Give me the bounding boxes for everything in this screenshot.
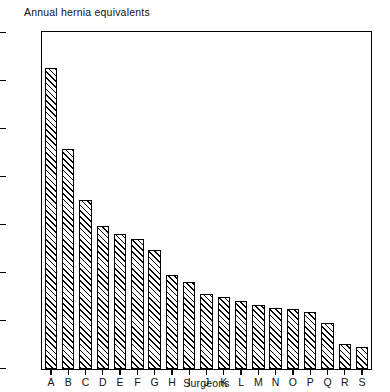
bar-rect <box>166 275 178 368</box>
x-axis-tick-mark <box>310 370 311 375</box>
bar-rect <box>79 200 91 369</box>
x-axis-tick-mark <box>258 370 259 375</box>
y-axis: 0100200300400500600700 <box>0 0 41 392</box>
bar-A <box>45 32 57 368</box>
bar-rect <box>183 282 195 369</box>
bar-J <box>200 32 212 368</box>
x-axis-tick-mark <box>189 370 190 375</box>
x-axis-tick-mark <box>171 370 172 375</box>
bar-P <box>304 32 316 368</box>
bar-rect <box>321 323 333 369</box>
bar-rect <box>218 297 230 369</box>
bar-E <box>114 32 126 368</box>
y-axis-tick-mark <box>0 320 6 321</box>
bar-F <box>131 32 143 368</box>
bar-D <box>97 32 109 368</box>
bar-rect <box>252 305 264 369</box>
bar-L <box>235 32 247 368</box>
bar-rect <box>62 149 74 369</box>
bar-rect <box>235 301 247 368</box>
x-axis-tick-mark <box>223 370 224 375</box>
bar-S <box>356 32 368 368</box>
x-axis-title: Surgeons <box>41 377 372 389</box>
chart-title: Annual hernia equivalents <box>24 6 150 18</box>
x-axis-tick-mark <box>292 370 293 375</box>
y-axis-tick-mark <box>0 128 6 129</box>
x-axis-tick-mark <box>275 370 276 375</box>
x-axis-tick-mark <box>240 370 241 375</box>
x-axis-tick-mark <box>50 370 51 375</box>
y-axis-tick-mark <box>0 176 6 177</box>
bar-O <box>287 32 299 368</box>
x-axis-tick-mark <box>327 370 328 375</box>
bar-B <box>62 32 74 368</box>
x-axis-tick-mark <box>102 370 103 375</box>
bar-K <box>218 32 230 368</box>
x-axis-tick-mark <box>154 370 155 375</box>
x-axis-tick-mark <box>68 370 69 375</box>
y-axis-tick-mark <box>0 272 6 273</box>
y-axis-tick-mark <box>0 32 6 33</box>
x-axis-tick-mark <box>85 370 86 375</box>
x-axis-tick-mark <box>361 370 362 375</box>
x-axis-tick-mark <box>206 370 207 375</box>
y-axis-tick-mark <box>0 80 6 81</box>
y-axis-tick-mark <box>0 224 6 225</box>
bar-rect <box>304 312 316 369</box>
bar-rect <box>45 68 57 368</box>
x-axis-tick-mark <box>344 370 345 375</box>
bar-rect <box>200 294 212 368</box>
bar-rect <box>148 250 160 369</box>
bar-series <box>42 32 370 368</box>
bar-H <box>166 32 178 368</box>
bar-I <box>183 32 195 368</box>
bar-rect <box>131 239 143 368</box>
bar-M <box>252 32 264 368</box>
bar-C <box>79 32 91 368</box>
y-axis-tick-mark <box>0 368 6 369</box>
bar-G <box>148 32 160 368</box>
bar-rect <box>356 347 368 369</box>
hernia-equivalents-bar-chart: Annual hernia equivalents 01002003004005… <box>0 0 390 392</box>
bar-R <box>339 32 351 368</box>
bar-rect <box>269 308 281 369</box>
bar-N <box>269 32 281 368</box>
x-axis-tick-mark <box>119 370 120 375</box>
bar-rect <box>287 309 299 369</box>
bar-rect <box>114 234 126 369</box>
bar-rect <box>97 226 109 368</box>
x-axis-tick-mark <box>137 370 138 375</box>
bar-Q <box>321 32 333 368</box>
bar-rect <box>339 344 351 369</box>
